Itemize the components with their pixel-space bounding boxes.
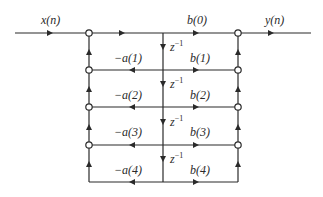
sum-node-left-2 [86, 104, 92, 110]
delay-label-1: z−1 [170, 40, 183, 53]
arrow-left-icon [129, 142, 135, 148]
coeff-b2: b(2) [190, 89, 210, 101]
arrow-up-icon [86, 49, 92, 55]
arrow-up-icon [235, 161, 241, 167]
arrow-right-icon [119, 30, 125, 36]
arrow-up-icon [235, 124, 241, 130]
sum-node-right-3 [235, 142, 241, 148]
delay-label-3: z−1 [170, 115, 183, 128]
delay-label-4: z−1 [170, 152, 183, 165]
input-label: x(n) [41, 14, 60, 26]
arrow-down-icon [160, 81, 166, 87]
arrow-down-icon [160, 119, 166, 125]
arrow-right-icon [47, 30, 53, 36]
coeff-a2: −a(2) [114, 89, 142, 101]
coeff-a3: −a(3) [114, 126, 142, 138]
signal-flow-graph [0, 0, 323, 197]
coeff-a4: −a(4) [114, 164, 142, 176]
arrow-left-icon [129, 104, 135, 110]
arrow-right-icon [193, 30, 199, 36]
arrow-right-icon [193, 67, 199, 73]
coeff-b1: b(1) [190, 52, 210, 64]
arrow-up-icon [235, 86, 241, 92]
arrow-down-icon [160, 44, 166, 50]
arrow-right-icon [193, 104, 199, 110]
sum-node-right-0 [235, 30, 241, 36]
arrow-left-icon [129, 67, 135, 73]
coeff-b0: b(0) [187, 14, 207, 26]
sum-node-right-1 [235, 67, 241, 73]
arrow-up-icon [86, 86, 92, 92]
coeff-a1: −a(1) [114, 52, 142, 64]
arrow-up-icon [86, 124, 92, 130]
output-label: y(n) [265, 14, 284, 26]
sum-node-left-1 [86, 67, 92, 73]
arrow-up-icon [86, 161, 92, 167]
coeff-b3: b(3) [190, 126, 210, 138]
arrow-right-icon [193, 179, 199, 185]
arrow-down-icon [160, 156, 166, 162]
sum-node-left-3 [86, 142, 92, 148]
arrow-up-icon [235, 49, 241, 55]
coeff-b4: b(4) [190, 164, 210, 176]
sum-node-right-2 [235, 104, 241, 110]
arrow-left-icon [129, 179, 135, 185]
arrow-right-icon [193, 142, 199, 148]
sum-node-left-0 [86, 30, 92, 36]
delay-label-2: z−1 [170, 77, 183, 90]
arrow-right-icon [268, 30, 274, 36]
